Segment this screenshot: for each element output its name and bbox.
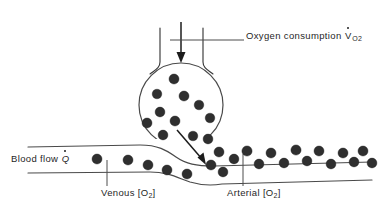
oxygen-molecule bbox=[123, 155, 133, 165]
oxygen-molecule bbox=[279, 158, 289, 168]
oxygen-molecule bbox=[162, 165, 172, 175]
oxygen-molecule bbox=[143, 160, 153, 170]
oxygen-molecule bbox=[291, 145, 301, 155]
oxygen-molecule bbox=[302, 156, 312, 166]
oxygen-molecule bbox=[169, 74, 179, 84]
oxygen-molecule bbox=[349, 157, 359, 167]
q-symbol-letter: Q bbox=[62, 153, 70, 164]
oxygen-subscript: O2 bbox=[352, 35, 362, 42]
oxygen-molecule bbox=[170, 116, 180, 126]
oxygen-molecule bbox=[242, 146, 252, 156]
inlet-tube-right-wall bbox=[203, 28, 213, 74]
oxygen-molecule bbox=[314, 146, 324, 156]
v-symbol-letter: V bbox=[345, 30, 352, 41]
oxygen-consumption-text: Oxygen consumption bbox=[246, 30, 342, 41]
venous-bracket-close: ] bbox=[153, 187, 156, 198]
vessel-bottom-wall bbox=[28, 172, 372, 185]
arterial-bracket-close: ] bbox=[278, 187, 281, 198]
oxygen-molecule bbox=[158, 130, 168, 140]
blood-flow-text: Blood flow bbox=[11, 153, 58, 164]
oxygen-molecule bbox=[194, 100, 204, 110]
oxygen-molecule bbox=[367, 158, 377, 168]
oxygen-molecule bbox=[92, 154, 102, 164]
oxygen-molecule bbox=[182, 169, 192, 179]
figure-container: Oxygen consumption VO2 Blood flow Q Veno… bbox=[0, 0, 382, 209]
oxygen-molecule bbox=[229, 154, 239, 164]
arterial-text: Arterial [O bbox=[227, 187, 274, 198]
arterial-label: Arterial [O2] bbox=[227, 188, 281, 199]
oxygen-molecule bbox=[254, 159, 264, 169]
inlet-tube-left-wall bbox=[150, 28, 160, 74]
oxygen-molecule bbox=[152, 89, 162, 99]
venous-text: Venous [O bbox=[101, 187, 149, 198]
oxygen-consumption-label: Oxygen consumption VO2 bbox=[246, 31, 362, 42]
oxygen-molecule bbox=[266, 148, 276, 158]
v-dot-symbol: V bbox=[345, 31, 353, 41]
q-dot-symbol: Q bbox=[61, 154, 70, 164]
oxygen-molecule bbox=[188, 131, 198, 141]
oxygen-molecule bbox=[214, 147, 224, 157]
oxygen-molecule bbox=[179, 91, 189, 101]
overdot-icon bbox=[347, 27, 349, 29]
consumption-arrow-head bbox=[177, 52, 186, 63]
oxygen-molecule bbox=[205, 113, 215, 123]
oxygen-molecule bbox=[326, 159, 336, 169]
oxygen-molecule bbox=[142, 118, 152, 128]
oxygen-molecule bbox=[358, 146, 368, 156]
oxygen-molecule bbox=[338, 148, 348, 158]
oxygen-molecule bbox=[206, 160, 216, 170]
oxygen-molecule bbox=[155, 107, 165, 117]
arterial-oxygen-molecule-group bbox=[206, 145, 377, 177]
oxygen-molecule bbox=[203, 134, 213, 144]
blood-flow-label: Blood flow Q bbox=[11, 154, 70, 164]
venous-label: Venous [O2] bbox=[101, 188, 156, 199]
oxygen-molecule bbox=[218, 167, 228, 177]
